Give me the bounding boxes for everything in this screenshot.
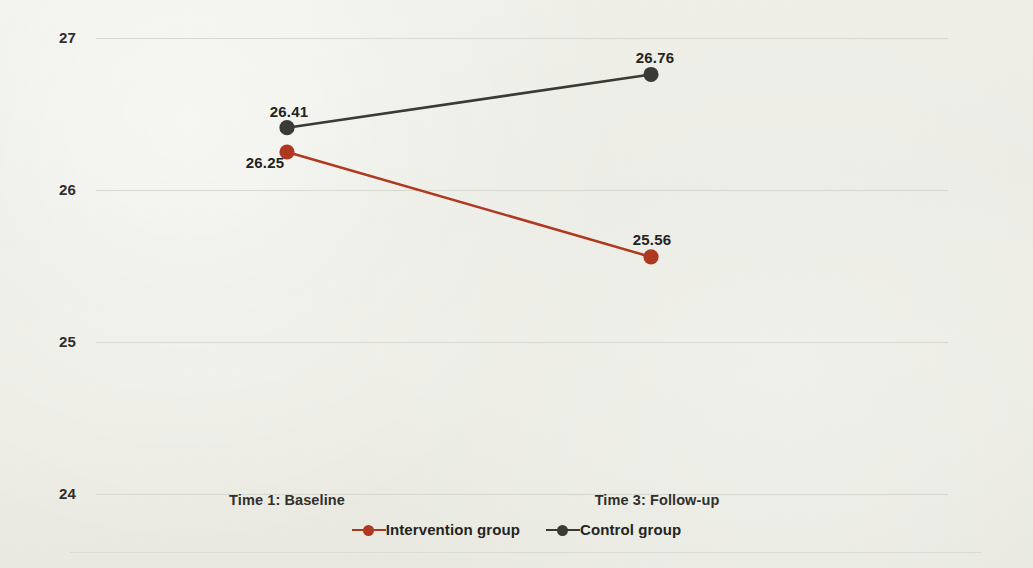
- point-control-followup[interactable]: [643, 67, 658, 82]
- value-label-intervention-followup: 25.56: [633, 231, 672, 248]
- series-control: [279, 67, 658, 135]
- x-axis-label-baseline: Time 1: Baseline: [229, 492, 345, 508]
- line-control: [287, 74, 651, 127]
- series-lines: [0, 0, 1033, 568]
- legend-marker-intervention-icon: [352, 523, 386, 537]
- line-intervention: [287, 152, 651, 257]
- value-label-intervention-baseline: 26.25: [246, 154, 285, 171]
- legend-label-intervention: Intervention group: [386, 521, 520, 538]
- plot-area: 27 26 25 24 26.41 26.76 26.25: [0, 0, 1033, 568]
- legend: Intervention group Control group: [0, 521, 1033, 538]
- series-intervention: [279, 144, 658, 264]
- legend-item-intervention[interactable]: Intervention group: [352, 521, 520, 538]
- legend-label-control: Control group: [580, 521, 681, 538]
- value-label-control-baseline: 26.41: [270, 103, 309, 120]
- point-control-baseline[interactable]: [279, 120, 294, 135]
- x-axis-label-followup: Time 3: Follow-up: [595, 492, 720, 508]
- value-label-control-followup: 26.76: [636, 49, 675, 66]
- point-intervention-followup[interactable]: [643, 249, 658, 264]
- chart-page: 27 26 25 24 26.41 26.76 26.25: [0, 0, 1033, 568]
- legend-marker-control-icon: [546, 523, 580, 537]
- legend-item-control[interactable]: Control group: [546, 521, 681, 538]
